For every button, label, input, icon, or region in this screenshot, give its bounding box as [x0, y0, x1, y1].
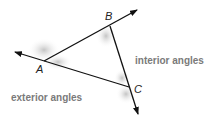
triangle-diagram: A B C interior angles exterior angles	[0, 0, 218, 121]
exterior-angles-label: exterior angles	[11, 92, 83, 103]
vertex-label-c: C	[134, 83, 142, 95]
vertex-label-a: A	[35, 63, 43, 75]
interior-angles-label: interior angles	[135, 55, 204, 66]
ray-ab-extended	[44, 10, 137, 61]
ray-ca-extended	[15, 52, 129, 87]
exterior-angle-shade-c	[116, 84, 136, 104]
vertex-label-b: B	[105, 10, 112, 22]
